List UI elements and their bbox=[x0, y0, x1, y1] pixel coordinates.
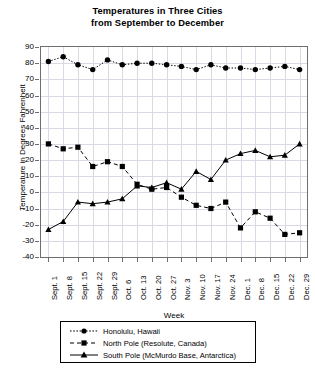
x-tick-mark bbox=[48, 258, 49, 262]
x-tick-label: Dec. 29 bbox=[303, 274, 311, 300]
y-tick-label: 60 bbox=[0, 92, 34, 100]
legend-label-north-pole: North Pole (Resolute, Canada) bbox=[98, 339, 207, 348]
y-tick-mark bbox=[35, 209, 39, 210]
data-point-marker bbox=[194, 203, 199, 208]
data-point-marker bbox=[46, 59, 51, 64]
legend-item-north-pole: North Pole (Resolute, Canada) bbox=[61, 337, 255, 349]
x-tick-mark bbox=[181, 258, 182, 262]
data-point-marker bbox=[208, 62, 213, 67]
x-tick-mark bbox=[152, 258, 153, 262]
y-tick-mark bbox=[35, 96, 39, 97]
y-tick-label: 0 bbox=[0, 188, 34, 196]
x-tick-label: Sept. 15 bbox=[81, 272, 89, 300]
x-tick-mark bbox=[255, 258, 256, 262]
x-tick-label: Sept. 22 bbox=[96, 272, 104, 300]
legend-label-south-pole: South Pole (McMurdo Base, Antarctica) bbox=[98, 351, 236, 360]
legend-item-honolulu: Honolulu, Hawaii bbox=[61, 325, 255, 337]
x-tick-mark bbox=[108, 258, 109, 262]
data-point-marker bbox=[164, 62, 169, 67]
series-line bbox=[48, 144, 299, 230]
y-tick-label: 10 bbox=[0, 172, 34, 180]
chart-screenshot: Temperatures in Three Cities from Septem… bbox=[0, 0, 315, 368]
legend-marker-square-icon bbox=[70, 338, 98, 348]
data-point-marker bbox=[164, 180, 170, 186]
x-tick-label: Oct. 6 bbox=[125, 280, 133, 300]
chart-title: Temperatures in Three Cities from Septem… bbox=[0, 6, 315, 29]
data-point-marker bbox=[46, 141, 51, 146]
data-point-marker bbox=[208, 206, 213, 211]
x-tick-label: Nov. 3 bbox=[184, 279, 192, 300]
data-point-marker bbox=[179, 195, 184, 200]
x-tick-mark bbox=[270, 258, 271, 262]
data-point-marker bbox=[297, 141, 303, 147]
x-tick-label: Dec. 1 bbox=[244, 278, 252, 300]
series-layer bbox=[41, 47, 307, 257]
y-tick-label: 90 bbox=[0, 43, 34, 51]
y-tick-label: 20 bbox=[0, 156, 34, 164]
x-tick-mark bbox=[300, 258, 301, 262]
data-point-marker bbox=[134, 61, 139, 66]
y-tick-label: 70 bbox=[0, 75, 34, 83]
y-tick-label: 80 bbox=[0, 59, 34, 67]
x-tick-label: Dec. 8 bbox=[258, 278, 266, 300]
x-tick-label: Sept. 1 bbox=[51, 276, 59, 300]
x-tick-label: Nov. 10 bbox=[199, 274, 207, 300]
y-tick-mark bbox=[35, 241, 39, 242]
series-0 bbox=[46, 54, 303, 72]
data-point-marker bbox=[252, 147, 258, 153]
x-tick-label: Nov. 24 bbox=[229, 274, 237, 300]
y-tick-label: -20 bbox=[0, 221, 34, 229]
x-tick-mark bbox=[122, 258, 123, 262]
y-tick-mark bbox=[35, 257, 39, 258]
y-tick-mark bbox=[35, 225, 39, 226]
data-point-marker bbox=[297, 67, 302, 72]
legend-item-south-pole: South Pole (McMurdo Base, Antarctica) bbox=[61, 349, 255, 361]
data-point-marker bbox=[193, 168, 199, 174]
data-point-marker bbox=[75, 145, 80, 150]
legend-label-honolulu: Honolulu, Hawaii bbox=[98, 327, 160, 336]
y-tick-label: 40 bbox=[0, 124, 34, 132]
data-point-marker bbox=[253, 209, 258, 214]
x-tick-mark bbox=[78, 258, 79, 262]
data-point-marker bbox=[120, 62, 125, 67]
data-point-marker bbox=[90, 164, 95, 169]
y-tick-label: -30 bbox=[0, 237, 34, 245]
data-point-marker bbox=[238, 65, 243, 70]
legend-marker-circle-icon bbox=[70, 326, 98, 336]
data-point-marker bbox=[267, 65, 272, 70]
x-tick-label: Oct. 27 bbox=[170, 276, 178, 300]
x-tick-mark bbox=[93, 258, 94, 262]
chart-title-line-1: Temperatures in Three Cities bbox=[0, 6, 315, 18]
y-tick-mark bbox=[35, 79, 39, 80]
data-point-marker bbox=[45, 226, 51, 232]
data-point-marker bbox=[223, 200, 228, 205]
x-tick-label: Nov. 17 bbox=[214, 274, 222, 300]
y-tick-label: -10 bbox=[0, 205, 34, 213]
x-tick-label: Sept. 8 bbox=[66, 276, 74, 300]
y-tick-mark bbox=[35, 47, 39, 48]
data-point-marker bbox=[120, 164, 125, 169]
series-2 bbox=[45, 141, 302, 232]
x-tick-label: Oct. 13 bbox=[140, 276, 148, 300]
y-tick-mark bbox=[35, 160, 39, 161]
y-tick-mark bbox=[35, 144, 39, 145]
data-point-marker bbox=[75, 199, 81, 205]
x-tick-mark bbox=[226, 258, 227, 262]
plot-area bbox=[40, 46, 308, 258]
chart-title-line-2: from September to December bbox=[0, 18, 315, 30]
x-tick-mark bbox=[241, 258, 242, 262]
series-1 bbox=[46, 141, 302, 237]
data-point-marker bbox=[238, 225, 243, 230]
data-point-marker bbox=[223, 157, 229, 163]
data-point-marker bbox=[194, 67, 199, 72]
data-point-marker bbox=[105, 57, 110, 62]
data-point-marker bbox=[61, 54, 66, 59]
legend-marker-triangle-icon bbox=[70, 350, 98, 360]
x-tick-label: Sept. 29 bbox=[111, 272, 119, 300]
series-line bbox=[48, 57, 299, 70]
y-tick-mark bbox=[35, 176, 39, 177]
y-tick-label: -40 bbox=[0, 253, 34, 261]
data-point-marker bbox=[75, 62, 80, 67]
data-point-marker bbox=[179, 64, 184, 69]
data-point-marker bbox=[149, 61, 154, 66]
